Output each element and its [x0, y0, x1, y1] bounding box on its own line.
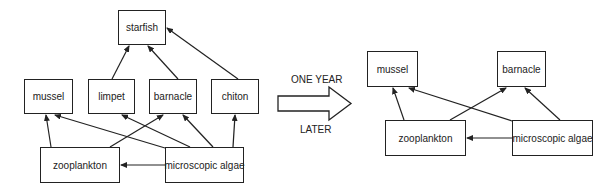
node-microscopic-algae: microscopic algae — [165, 147, 244, 183]
edge-zooplankton-mussel — [46, 115, 51, 147]
node-barnacle: barnacle — [149, 79, 197, 114]
edge-algae-chiton — [233, 115, 235, 147]
edge-barnacle-starfish — [148, 46, 178, 79]
node-zooplankton: zooplankton — [40, 147, 120, 183]
node-mussel: mussel — [24, 79, 73, 114]
edge-algae-barnacle — [183, 115, 213, 147]
edge-algae-mussel — [55, 115, 165, 148]
node-after-zooplankton: zooplankton — [385, 120, 466, 156]
edge-after-zooplankton-mussel — [393, 88, 404, 120]
edge-chiton-starfish — [167, 28, 238, 79]
food-web-diagram: starfish mussel limpet barnacle chiton z… — [0, 0, 613, 192]
transition-label-bottom: LATER — [300, 124, 332, 135]
node-after-microscopic-algae: microscopic algae — [512, 120, 593, 156]
transition-label-top: ONE YEAR — [291, 74, 343, 85]
edge-limpet-starfish — [112, 46, 129, 79]
node-after-barnacle: barnacle — [497, 51, 546, 87]
node-chiton: chiton — [211, 79, 259, 114]
transition-arrow-icon — [278, 87, 351, 120]
edge-after-algae-barnacle — [525, 88, 560, 120]
node-limpet: limpet — [88, 79, 135, 114]
node-after-mussel: mussel — [367, 51, 418, 87]
node-starfish: starfish — [118, 10, 166, 45]
